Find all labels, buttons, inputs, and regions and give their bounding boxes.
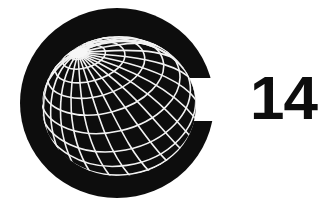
logo-canvas: 14 — [0, 0, 326, 207]
numeral-14: 14 — [250, 63, 318, 132]
c14-logo-graphic: 14 — [0, 0, 326, 207]
